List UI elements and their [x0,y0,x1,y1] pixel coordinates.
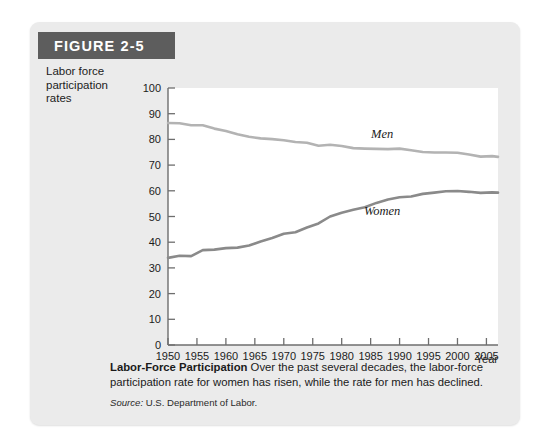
figure-panel: FIGURE 2-5 Labor force participation rat… [30,22,520,425]
figure-number-label: FIGURE 2-5 [54,38,145,54]
series-label-women: Women [364,204,400,218]
y-tick-label: 60 [149,185,161,197]
y-tick-label: 20 [149,288,161,300]
y-tick-label: 100 [143,82,161,94]
line-chart: 0102030405060708090100 19501955196019651… [108,60,508,365]
y-tick-label: 80 [149,133,161,145]
figure-source: Source: U.S. Department of Labor. [110,397,505,408]
source-body: U.S. Department of Labor. [143,397,257,408]
caption-title: Labor-Force Participation [110,361,247,373]
figure-number-tab: FIGURE 2-5 [38,32,175,59]
y-tick-label: 10 [149,313,161,325]
figure-caption: Labor-Force Participation Over the past … [110,360,505,391]
figure-screenshot: FIGURE 2-5 Labor force participation rat… [0,0,546,444]
y-tick-label: 70 [149,159,161,171]
chart-svg: 0102030405060708090100 19501955196019651… [108,60,508,365]
series-label-men: Men [370,127,393,141]
y-tick-label: 40 [149,236,161,248]
source-prefix: Source: [110,397,143,408]
y-tick-label: 50 [149,211,161,223]
y-tick-label: 30 [149,262,161,274]
y-tick-label: 90 [149,108,161,120]
